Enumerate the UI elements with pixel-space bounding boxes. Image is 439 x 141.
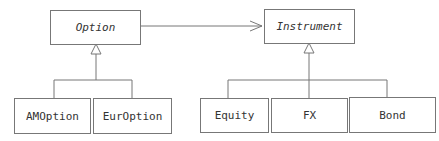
class-fx: FX (271, 98, 348, 133)
class-instrument: Instrument (264, 9, 355, 44)
class-name: EurOption (103, 110, 163, 123)
class-name: Instrument (276, 20, 342, 33)
class-name: Option (76, 21, 116, 34)
class-euroption: EurOption (93, 98, 172, 134)
class-equity: Equity (200, 98, 269, 133)
class-bond: Bond (349, 97, 436, 133)
class-name: Equity (215, 109, 255, 122)
class-name: FX (303, 109, 316, 122)
class-option: Option (50, 10, 141, 45)
class-name: Bond (379, 109, 406, 122)
class-name: AMOption (26, 110, 79, 123)
class-amoption: AMOption (14, 98, 91, 134)
